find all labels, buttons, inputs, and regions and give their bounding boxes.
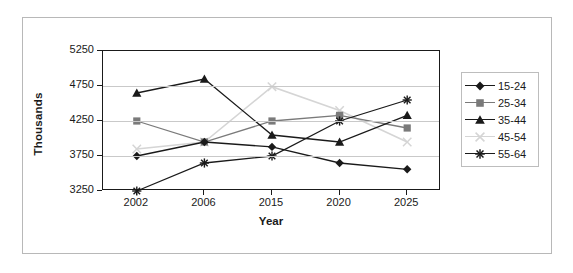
x-axis-title: Year (102, 215, 440, 227)
y-axis-title: Thousands (30, 79, 46, 169)
marker-x (476, 132, 485, 141)
x-axis-tick-label: 2002 (106, 196, 166, 208)
legend-label: 45-54 (495, 131, 526, 143)
chart-screenshot: Thousands 32503750425047505250 200220062… (0, 0, 573, 273)
gridline (103, 156, 439, 157)
y-axis-tick-label: 4250 (50, 114, 94, 125)
legend: 15-2425-3435-4445-5455-64 (461, 72, 539, 167)
y-axis-tick-label: 4750 (50, 79, 94, 90)
marker-asterisk (403, 95, 412, 104)
legend-marker-asterisk-icon (465, 147, 495, 161)
x-axis-tick-mark (271, 190, 272, 195)
legend-key-asterisk-icon (465, 147, 495, 161)
marker-diamond (403, 165, 411, 173)
legend-marker-x-icon (465, 130, 495, 144)
marker-diamond (335, 159, 343, 167)
gridline (103, 121, 439, 122)
legend-key-diamond-icon (465, 79, 495, 93)
marker-x (403, 138, 411, 146)
x-axis-tick-mark (136, 190, 137, 195)
legend-key-square-icon (465, 96, 495, 110)
marker-asterisk (132, 186, 141, 195)
y-axis-title-text: Thousands (32, 92, 44, 155)
marker-triangle (403, 111, 412, 119)
legend-item-55-64[interactable]: 55-64 (465, 145, 535, 162)
x-axis-tick-mark (339, 190, 340, 195)
plot-area (102, 50, 440, 190)
legend-item-35-44[interactable]: 35-44 (465, 111, 535, 128)
legend-label: 55-64 (495, 148, 526, 160)
marker-triangle (200, 74, 209, 82)
marker-diamond (268, 143, 276, 151)
marker-diamond (476, 81, 485, 90)
y-axis-tick-mark (97, 190, 102, 191)
legend-marker-triangle-icon (465, 113, 495, 127)
y-axis-tick-label: 3750 (50, 149, 94, 160)
x-axis-tick-label: 2006 (173, 196, 233, 208)
legend-label: 15-24 (495, 80, 526, 92)
legend-key-triangle-icon (465, 113, 495, 127)
legend-key-x-icon (465, 130, 495, 144)
legend-label: 35-44 (495, 114, 526, 126)
x-axis-tick-mark (203, 190, 204, 195)
y-axis-tick-label: 3250 (50, 184, 94, 195)
marker-asterisk (475, 149, 485, 159)
series-25-34 (133, 112, 411, 146)
legend-marker-diamond-icon (465, 79, 495, 93)
x-axis-tick-label: 2020 (309, 196, 369, 208)
marker-square (404, 124, 411, 131)
legend-item-45-54[interactable]: 45-54 (465, 128, 535, 145)
y-axis-tick-labels: 32503750425047505250 (50, 0, 96, 273)
legend-marker-square-icon (465, 96, 495, 110)
gridline (103, 86, 439, 87)
marker-triangle (475, 115, 485, 124)
y-axis-tick-label: 5250 (50, 44, 94, 55)
x-axis-tick-mark (406, 190, 407, 195)
legend-item-25-34[interactable]: 25-34 (465, 94, 535, 111)
legend-item-15-24[interactable]: 15-24 (465, 77, 535, 94)
x-axis-tick-label: 2025 (376, 196, 436, 208)
legend-label: 25-34 (495, 97, 526, 109)
x-axis-tick-label: 2015 (241, 196, 301, 208)
marker-square (476, 99, 484, 107)
marker-asterisk (200, 158, 209, 167)
